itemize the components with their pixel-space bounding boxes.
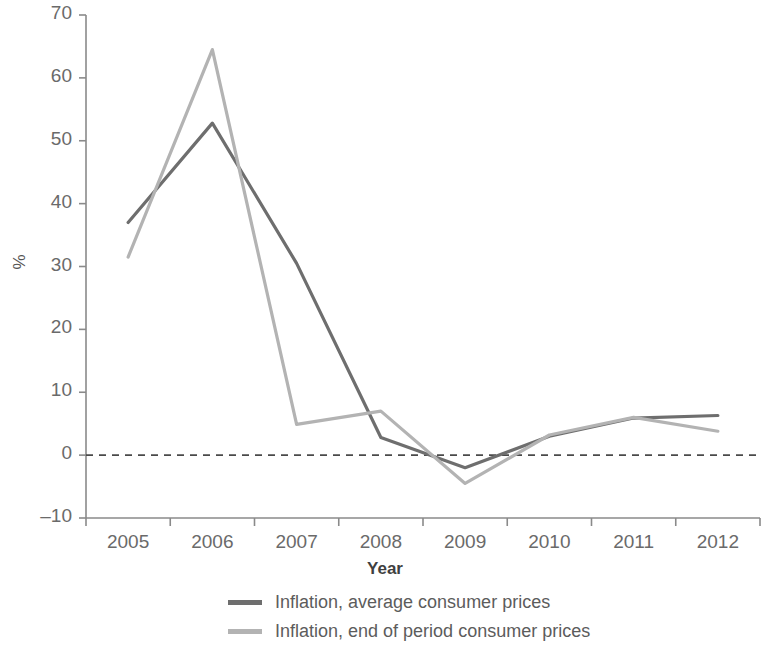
x-tick-label: 2006	[167, 531, 257, 553]
x-axis-label: Year	[0, 559, 770, 579]
x-tick-label: 2012	[673, 531, 763, 553]
inflation-line-chart: 706050403020100–10 200520062007200820092…	[0, 0, 770, 647]
series-line-0	[128, 123, 718, 468]
y-tick-label: 60	[12, 65, 72, 87]
y-tick-label: 20	[12, 316, 72, 338]
x-tick-label: 2009	[420, 531, 510, 553]
legend-label-end-of-period: Inflation, end of period consumer prices	[275, 621, 590, 642]
series-layer	[128, 50, 718, 484]
y-tick-label: 50	[12, 128, 72, 150]
legend-label-average: Inflation, average consumer prices	[275, 592, 550, 613]
x-tick-label: 2005	[83, 531, 173, 553]
x-tick-label: 2007	[252, 531, 342, 553]
y-tick-label: 10	[12, 379, 72, 401]
y-tick-label: 40	[12, 191, 72, 213]
series-line-1	[128, 50, 718, 484]
chart-legend: Inflation, average consumer prices Infla…	[0, 588, 770, 646]
y-tick-label: –10	[12, 505, 72, 527]
legend-item-average: Inflation, average consumer prices	[0, 588, 770, 617]
legend-swatch-icon-average	[228, 600, 262, 605]
legend-item-end-of-period: Inflation, end of period consumer prices	[0, 617, 770, 646]
y-tick-label: 0	[12, 442, 72, 464]
x-tick-label: 2008	[336, 531, 426, 553]
x-tick-label: 2010	[504, 531, 594, 553]
x-tick-label: 2011	[589, 531, 679, 553]
y-tick-label: 70	[12, 2, 72, 24]
y-axis-label: %	[10, 232, 30, 292]
legend-swatch-icon-end-of-period	[228, 629, 262, 634]
axis-layer	[79, 15, 760, 526]
